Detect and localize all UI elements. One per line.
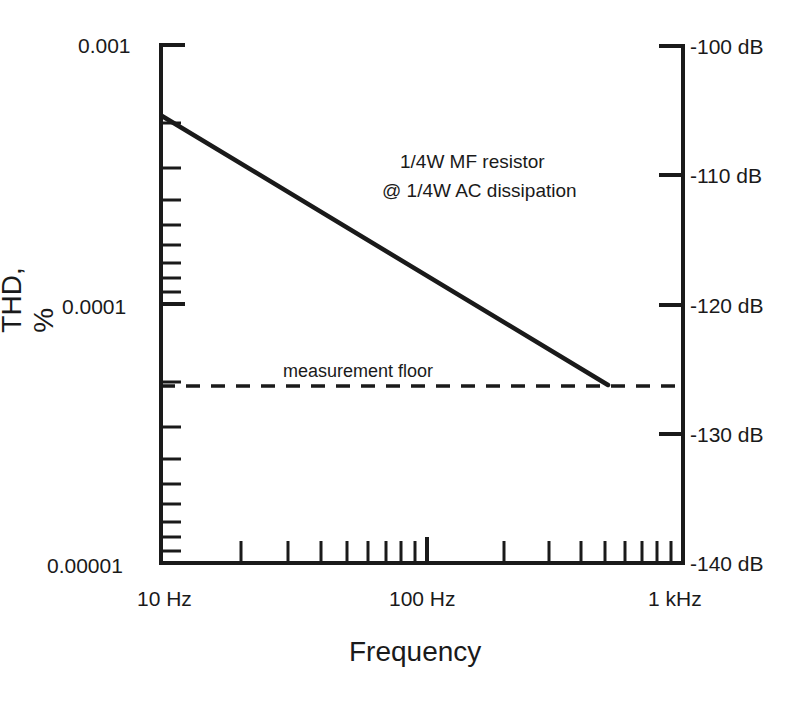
thd-frequency-chart: 0.001 0.0001 0.00001 THD, % -100 dB -110… [0, 0, 802, 703]
x-tick-label-2: 1 kHz [648, 588, 702, 609]
x-axis-title: Frequency [349, 638, 481, 666]
y-axis-title-wrap: THD, % [8, 210, 48, 390]
axis-lines [161, 45, 683, 563]
annotation-condition-line-2: @ 1/4W AC dissipation [382, 181, 577, 200]
db-tick-label-4: -140 dB [690, 553, 764, 574]
y-axis-right-ticks [659, 46, 683, 563]
annotation-measurement-floor: measurement floor [283, 362, 433, 380]
y-axis-title: THD, % [0, 267, 60, 332]
y-tick-label-1: 0.0001 [62, 296, 126, 317]
x-axis-ticks [241, 537, 671, 563]
x-tick-label-0: 10 Hz [137, 588, 192, 609]
y-tick-label-0: 0.001 [78, 35, 131, 56]
db-tick-label-2: -120 dB [690, 295, 764, 316]
db-tick-label-1: -110 dB [690, 165, 762, 186]
y-tick-label-2: 0.00001 [47, 555, 123, 576]
x-tick-label-1: 100 Hz [389, 588, 456, 609]
db-tick-label-3: -130 dB [690, 424, 764, 445]
db-tick-label-0: -100 dB [690, 36, 764, 57]
annotation-condition-line-1: 1/4W MF resistor [400, 152, 545, 171]
